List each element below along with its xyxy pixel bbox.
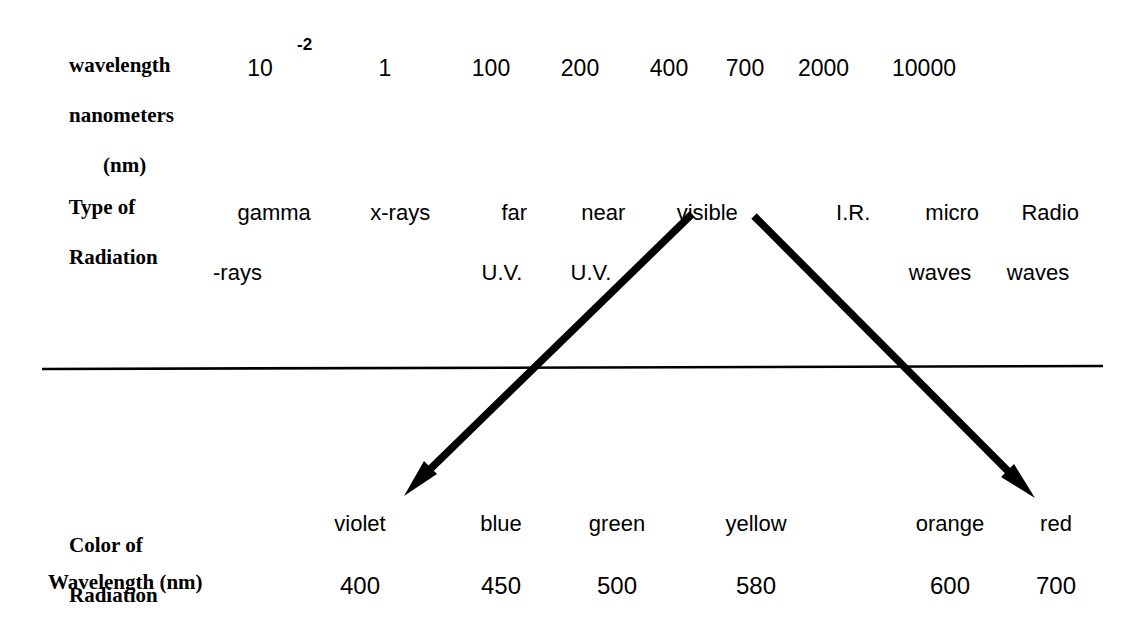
radiation-band-near-uv-line2: U.V.	[551, 258, 631, 288]
radiation-type-row-label: Type of Radiation	[48, 170, 158, 295]
wavelength-value-3: 200	[550, 55, 610, 82]
wavelength-label-line2: nanometers	[69, 103, 174, 127]
color-of-radiation-label-line1: Color of	[69, 533, 143, 557]
wavelength-value-2: 100	[461, 55, 521, 82]
radiation-band-microwaves-line1: micro	[925, 200, 979, 225]
radiation-band-microwaves-line2: waves	[894, 258, 986, 288]
radiation-band-visible-line1: visible	[677, 200, 738, 225]
visible-color-yellow: yellow	[708, 510, 804, 537]
radiation-band-visible: visible	[645, 168, 745, 318]
visible-color-violet: violet	[318, 510, 402, 537]
wavelength-value-7: 10000	[878, 55, 970, 82]
radiation-band-microwaves: micro waves	[894, 168, 986, 348]
radiation-band-far-uv-line1: far	[501, 200, 527, 225]
radiation-band-near-uv: near U.V.	[551, 168, 631, 348]
radiation-type-label-line1: Type of	[69, 195, 136, 219]
spectrum-diagram: wavelength nanometers (nm) 10 -2 1 100 2…	[0, 0, 1139, 644]
wavelength-value-0-exponent: -2	[297, 36, 312, 53]
visible-wavelength-violet: 400	[318, 572, 402, 600]
radiation-band-x-rays-line1: x-rays	[370, 200, 430, 225]
visible-wavelength-orange: 600	[900, 572, 1000, 600]
radiation-band-near-uv-line1: near	[581, 200, 625, 225]
wavelength-value-4: 400	[639, 55, 699, 82]
horizontal-divider-line	[42, 366, 1103, 369]
visible-wavelength-green: 500	[572, 572, 662, 600]
visible-wavelength-blue: 450	[466, 572, 536, 600]
wavelength-value-0: 10	[230, 55, 290, 82]
wavelength-nm-row-label: Wavelength (nm)	[48, 570, 203, 595]
radiation-band-infrared-line1: I.R.	[836, 200, 870, 225]
radiation-band-radio-waves-line1: Radio	[1021, 200, 1078, 225]
wavelength-value-1: 1	[360, 55, 410, 82]
visible-wavelength-red: 700	[1026, 572, 1086, 600]
radiation-band-far-uv: far U.V.	[466, 168, 538, 348]
visible-color-green: green	[572, 510, 662, 537]
radiation-band-gamma-rays-line2: -rays	[213, 258, 325, 288]
radiation-type-label-line2: Radiation	[69, 245, 158, 269]
radiation-band-radio-waves-line2: waves	[990, 258, 1086, 288]
wavelength-value-5: 700	[715, 55, 775, 82]
visible-wavelength-yellow: 580	[708, 572, 804, 600]
radiation-band-gamma-rays-line1: gamma	[237, 200, 310, 225]
wavelength-label-line1: wavelength	[69, 53, 171, 77]
radiation-band-radio-waves: Radio waves	[990, 168, 1086, 348]
visible-color-blue: blue	[466, 510, 536, 537]
radiation-band-far-uv-line2: U.V.	[466, 258, 538, 288]
visible-color-orange: orange	[900, 510, 1000, 537]
radiation-band-gamma-rays: gamma -rays	[213, 168, 325, 348]
radiation-band-x-rays: x-rays	[340, 168, 436, 318]
radiation-band-infrared: I.R.	[805, 168, 877, 318]
visible-color-red: red	[1026, 510, 1086, 537]
wavelength-value-6: 2000	[786, 55, 861, 82]
